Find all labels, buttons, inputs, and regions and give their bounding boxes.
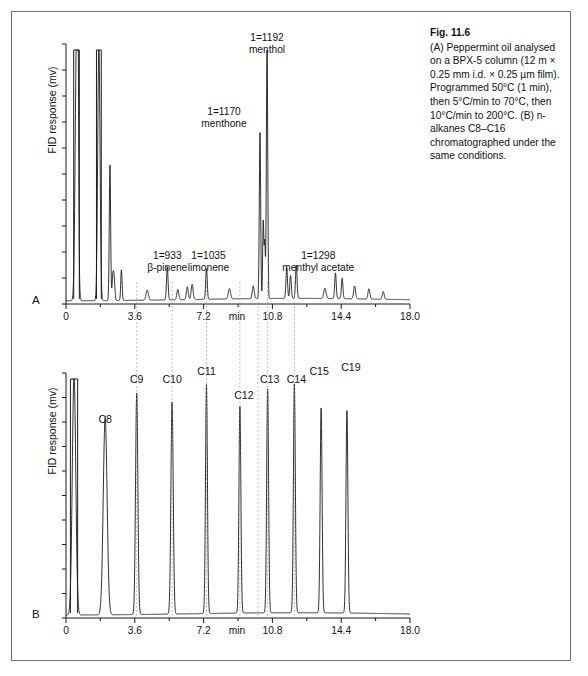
panel-a-xaxis-unit: min [229,311,245,322]
xaxis-tick-label: 10.8 [262,311,282,322]
alkane-peak-label: C8 [98,413,112,425]
peak-retention-index: 1=1170 [201,106,246,118]
xaxis-tick-label: 18.0 [400,625,420,636]
panel-b-plot [22,355,422,655]
alkane-peak-label: C19 [341,361,360,373]
peak-annotation: 1=1035limonene [188,250,229,274]
alkane-peak-label: C9 [130,373,144,385]
xaxis-tick-label: 14.4 [331,311,351,322]
alkane-peak-label: C10 [162,373,181,385]
peak-compound-name: menthone [201,118,246,130]
peak-annotation: 1=1192menthol [249,32,285,56]
figure-root: Fig. 11.6 (A) Peppermint oil analysed on… [0,0,588,676]
alkane-peak-label: C14 [287,373,306,385]
xaxis-tick-label: 0 [63,625,69,636]
alkane-peak-label: C15 [309,365,328,377]
xaxis-tick-label: 3.6 [128,311,142,322]
peak-annotation: 1=933β-pinene [147,250,187,274]
peak-compound-name: menthyl acetate [282,262,354,274]
xaxis-tick-label: 10.8 [262,625,282,636]
chart-panel-a: A FID response (mv) 03.67.210.814.418.0 … [22,26,422,341]
alkane-peak-label: C11 [197,365,216,377]
alkane-peak-label: C12 [234,389,253,401]
peak-retention-index: 1=933 [147,250,187,262]
peak-retention-index: 1=1035 [188,250,229,262]
caption-title: Fig. 11.6 [430,26,560,40]
xaxis-tick-label: 3.6 [128,625,142,636]
peak-annotation: 1=1170menthone [201,106,246,130]
peak-compound-name: β-pinene [147,262,187,274]
peak-retention-index: 1=1192 [249,32,285,44]
xaxis-tick-label: 14.4 [331,625,351,636]
figure-caption: Fig. 11.6 (A) Peppermint oil analysed on… [430,26,560,163]
peak-annotation: 1=1298menthyl acetate [282,250,354,274]
peak-retention-index: 1=1298 [282,250,354,262]
panel-b-xaxis-unit: min [229,625,245,636]
peak-compound-name: limonene [188,262,229,274]
alkane-peak-label: C13 [260,373,279,385]
xaxis-tick-label: 18.0 [400,311,420,322]
caption-body: (A) Peppermint oil analysed on a BPX-5 c… [430,41,560,163]
xaxis-tick-label: 0 [63,311,69,322]
xaxis-tick-label: 7.2 [197,625,211,636]
chart-panel-b: B FID response (mv) 03.67.210.814.418.0 … [22,355,422,655]
peak-compound-name: menthol [249,44,285,56]
xaxis-tick-label: 7.2 [197,311,211,322]
panel-a-plot [22,26,422,341]
